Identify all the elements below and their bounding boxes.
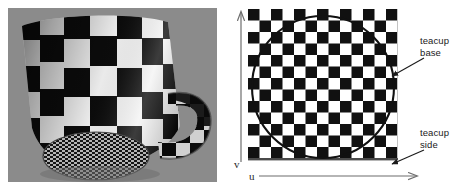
- texture-mapping-figure: teacup base teacup side v u: [0, 0, 474, 196]
- cup-shadow: [40, 166, 160, 182]
- texture-map-svg: [237, 0, 474, 196]
- uv-texture-map-diagram: [237, 0, 474, 196]
- teacup-side-label-line1: teacup: [420, 127, 449, 139]
- teacup-base-label-line2: base: [420, 47, 449, 59]
- teacup-base-label-line1: teacup: [420, 35, 449, 47]
- teacup-side-label-line2: side: [420, 139, 449, 151]
- u-axis-label: u: [249, 170, 255, 182]
- teacup-base-label: teacup base: [420, 35, 449, 58]
- rendered-teacup-photo: [8, 8, 217, 182]
- teacup-side-label: teacup side: [420, 127, 449, 150]
- teacup-render-svg: [8, 8, 217, 182]
- v-axis-label: v: [234, 158, 240, 170]
